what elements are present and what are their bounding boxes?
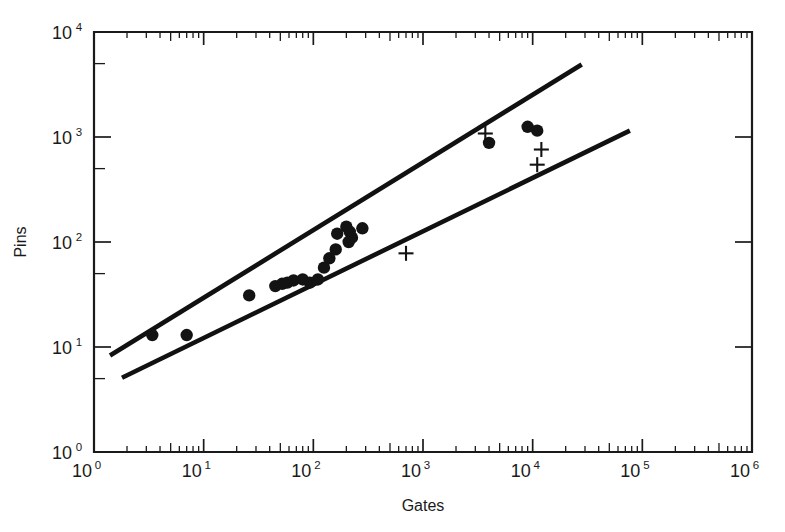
- data-point-circle: [531, 124, 543, 136]
- x-tick-label: 10: [291, 461, 311, 481]
- pins-vs-gates-scatter-plot: 100101102103104105106 100101102103104 Ga…: [0, 0, 785, 532]
- x-tick-label-exponent: 1: [204, 459, 210, 471]
- x-tick-label: 10: [182, 461, 202, 481]
- plot-frame: [94, 32, 752, 452]
- x-axis-tick-labels: 100101102103104105106: [72, 459, 759, 481]
- x-tick-label-exponent: 3: [424, 459, 430, 471]
- chart-figure: 100101102103104105106 100101102103104 Ga…: [0, 0, 785, 532]
- data-point-circle: [312, 273, 324, 285]
- x-tick-label: 10: [730, 461, 750, 481]
- y-tick-label: 10: [52, 128, 72, 148]
- y-tick-label: 10: [52, 338, 72, 358]
- x-axis-title: Gates: [402, 497, 445, 514]
- x-tick-label: 10: [401, 461, 421, 481]
- y-axis-title: Pins: [12, 226, 29, 257]
- trend-lower-bound: [122, 131, 630, 378]
- y-tick-label-exponent: 0: [76, 441, 82, 453]
- x-axis-ticks: [94, 32, 752, 452]
- y-axis-tick-labels: 100101102103104: [52, 21, 83, 463]
- data-point-circle: [180, 329, 192, 341]
- data-point-circle: [330, 243, 342, 255]
- y-tick-label: 10: [52, 443, 72, 463]
- data-point-circle: [356, 222, 368, 234]
- y-tick-label-exponent: 1: [76, 336, 82, 348]
- x-tick-label: 10: [72, 461, 92, 481]
- data-point-circle: [342, 236, 354, 248]
- y-tick-label: 10: [52, 233, 72, 253]
- y-tick-label: 10: [52, 23, 72, 43]
- data-point-plus: [399, 246, 414, 261]
- x-tick-label-exponent: 5: [643, 459, 649, 471]
- data-point-plus: [530, 157, 545, 172]
- data-point-circle: [243, 289, 255, 301]
- x-tick-label-exponent: 6: [753, 459, 759, 471]
- x-tick-label: 10: [620, 461, 640, 481]
- y-tick-label-exponent: 4: [76, 21, 83, 33]
- data-point-plus: [534, 142, 549, 157]
- y-axis-ticks: [94, 32, 752, 452]
- axes-frame-path: [94, 32, 752, 452]
- y-tick-label-exponent: 2: [76, 231, 82, 243]
- y-tick-label-exponent: 3: [76, 126, 82, 138]
- x-tick-label-exponent: 4: [533, 459, 540, 471]
- data-point-circle: [146, 329, 158, 341]
- x-tick-label-exponent: 0: [95, 459, 101, 471]
- data-markers-group: [146, 121, 549, 342]
- x-tick-label: 10: [511, 461, 531, 481]
- x-tick-label-exponent: 2: [314, 459, 320, 471]
- trend-upper-bound: [110, 65, 582, 356]
